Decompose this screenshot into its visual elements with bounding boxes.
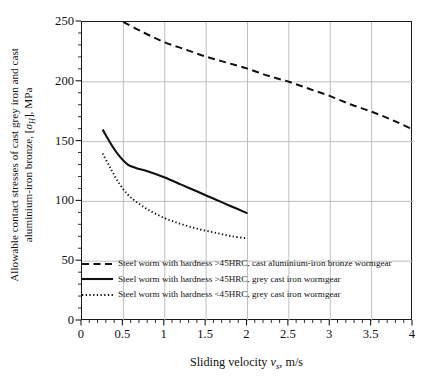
chart-figure: Allowable contact stresses of cast grey … [0, 0, 434, 386]
legend-swatch-solid [82, 274, 113, 284]
x-axis-title: Sliding velocity vs, m/s [81, 355, 412, 371]
y-tick-label: 0 [30, 313, 74, 328]
legend-label: Steel worm with hardness >45HRC, cast al… [118, 259, 392, 268]
y-tick-label: 150 [30, 133, 74, 148]
chart-legend: Steel worm with hardness >45HRC, cast al… [82, 256, 412, 303]
x-tick-label: 4 [392, 327, 432, 342]
series-line-0 [123, 22, 413, 130]
y-axis-title: Allowable contact stresses of cast grey … [0, 0, 46, 330]
series-line-2 [103, 154, 248, 239]
x-tick-label: 3.5 [351, 327, 391, 342]
legend-swatch-dotted [82, 290, 113, 300]
y-tick-label: 250 [30, 14, 74, 29]
x-tick-label: 0.5 [102, 327, 142, 342]
y-tick-label: 100 [30, 193, 74, 208]
y-tick-label: 200 [30, 73, 74, 88]
legend-label: Steel worm with hardness >45HRC, grey ca… [118, 275, 341, 284]
legend-item: Steel worm with hardness >45HRC, cast al… [82, 256, 412, 272]
y-axis-title-line1: Allowable contact stresses of cast grey … [8, 48, 20, 282]
y-tick-label: 50 [30, 253, 74, 268]
legend-label: Steel worm with hardness <45HRC, grey ca… [118, 290, 341, 299]
legend-item: Steel worm with hardness <45HRC, grey ca… [82, 287, 412, 303]
x-tick-label: 1.5 [185, 327, 225, 342]
x-tick-label: 1 [144, 327, 184, 342]
x-tick-label: 2.5 [268, 327, 308, 342]
legend-item: Steel worm with hardness >45HRC, grey ca… [82, 272, 412, 288]
series-line-1 [103, 130, 248, 214]
x-tick-label: 2 [227, 327, 267, 342]
x-tick-label: 3 [309, 327, 349, 342]
legend-swatch-dashed [82, 259, 113, 269]
x-tick-label: 0 [61, 327, 101, 342]
